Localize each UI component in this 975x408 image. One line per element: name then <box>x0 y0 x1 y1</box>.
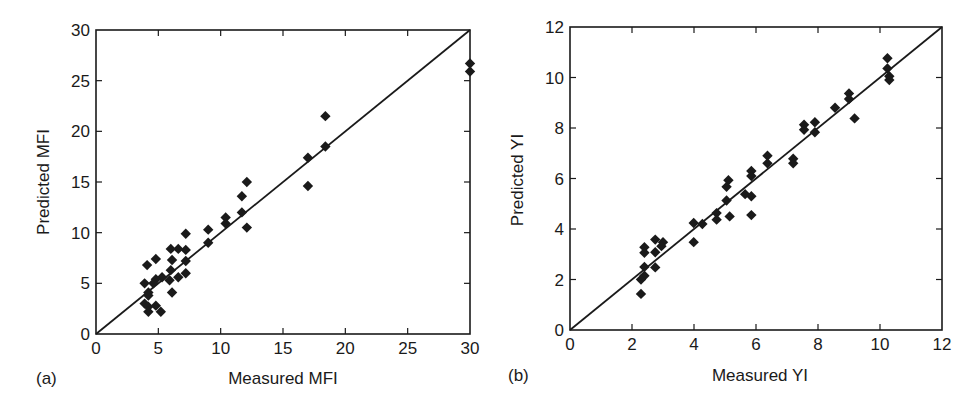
data-point-diamond <box>181 228 191 238</box>
data-point-diamond <box>166 265 176 275</box>
y-tick-label: 30 <box>71 21 90 40</box>
x-tick-label: 8 <box>813 335 822 354</box>
data-point-diamond <box>636 289 646 299</box>
data-point-diamond <box>650 234 660 244</box>
data-point-diamond <box>237 191 247 201</box>
data-point-diamond <box>237 207 247 217</box>
data-point-diamond <box>724 211 734 221</box>
data-point-diamond <box>242 177 252 187</box>
y-tick-label: 8 <box>555 119 564 138</box>
panel-label-b: (b) <box>508 366 529 385</box>
x-tick-label: 15 <box>274 339 293 358</box>
data-point-diamond <box>167 287 177 297</box>
x-tick-label: 10 <box>211 339 230 358</box>
x-tick-labels: 051015202530 <box>91 339 479 358</box>
y-tick-label: 4 <box>555 220 564 239</box>
x-tick-label: 0 <box>91 339 100 358</box>
identity-line <box>570 27 942 330</box>
data-point-diamond <box>166 244 176 254</box>
x-tick-label: 30 <box>461 339 480 358</box>
data-point-diamond <box>151 254 161 264</box>
y-tick-label: 0 <box>81 325 90 344</box>
chart-panel-b: 024681012 024681012 Measured YI Predicte… <box>508 18 951 385</box>
data-point-diamond <box>220 218 230 228</box>
data-point-diamond <box>167 255 177 265</box>
x-tick-label: 6 <box>751 335 760 354</box>
data-point-diamond <box>688 237 698 247</box>
data-point-diamond <box>844 94 854 104</box>
y-tick-label: 12 <box>545 18 564 37</box>
data-point-diamond <box>810 117 820 127</box>
x-tick-label: 4 <box>689 335 698 354</box>
x-tick-label: 25 <box>398 339 417 358</box>
x-tick-label: 20 <box>336 339 355 358</box>
y-tick-labels: 051015202530 <box>71 21 90 344</box>
figure: 051015202530 051015202530 Measured MFI P… <box>0 0 975 408</box>
data-point-diamond <box>882 53 892 63</box>
data-point-diamond <box>721 195 731 205</box>
data-point-diamond <box>320 111 330 121</box>
identity-line <box>96 30 470 334</box>
data-points <box>139 58 475 317</box>
reference-line <box>96 30 470 334</box>
reference-line <box>570 27 942 330</box>
x-tick-label: 12 <box>933 335 952 354</box>
x-tick-label: 5 <box>154 339 163 358</box>
data-point-diamond <box>639 248 649 258</box>
x-axis-label: Measured MFI <box>228 369 338 388</box>
y-tick-label: 0 <box>555 321 564 340</box>
y-tick-label: 20 <box>71 122 90 141</box>
y-tick-label: 10 <box>71 224 90 243</box>
data-point-diamond <box>882 63 892 73</box>
data-point-diamond <box>849 113 859 123</box>
y-tick-label: 10 <box>545 69 564 88</box>
panel-label-a: (a) <box>36 369 57 388</box>
data-point-diamond <box>242 222 252 232</box>
y-tick-labels: 024681012 <box>545 18 564 340</box>
x-axis-label: Measured YI <box>712 366 808 385</box>
data-point-diamond <box>139 278 149 288</box>
data-point-diamond <box>303 181 313 191</box>
y-tick-label: 6 <box>555 170 564 189</box>
y-tick-label: 25 <box>71 72 90 91</box>
data-point-diamond <box>142 260 152 270</box>
x-tick-label: 0 <box>565 335 574 354</box>
data-points <box>636 53 895 299</box>
data-point-diamond <box>303 152 313 162</box>
data-point-diamond <box>203 224 213 234</box>
x-tick-label: 10 <box>871 335 890 354</box>
y-tick-label: 2 <box>555 271 564 290</box>
chart-panel-a: 051015202530 051015202530 Measured MFI P… <box>34 21 479 388</box>
data-point-diamond <box>711 214 721 224</box>
y-tick-label: 5 <box>81 274 90 293</box>
x-tick-label: 2 <box>627 335 636 354</box>
y-tick-label: 15 <box>71 173 90 192</box>
data-point-diamond <box>746 210 756 220</box>
y-axis-label: Predicted MFI <box>34 129 53 235</box>
y-axis-label: Predicted YI <box>508 134 527 226</box>
x-tick-labels: 024681012 <box>565 335 951 354</box>
